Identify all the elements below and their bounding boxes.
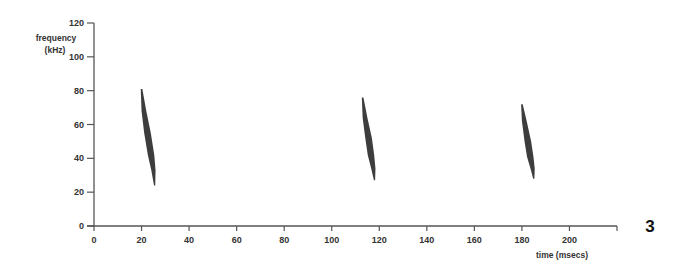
x-axis-title: time (msecs) [536, 250, 588, 260]
panel-label: 3 [645, 217, 654, 236]
call-trace-2 [362, 97, 376, 180]
x-tick-label: 120 [372, 235, 387, 245]
x-axis: 020406080100120140160180200 [87, 226, 617, 245]
call-trace-1 [141, 89, 156, 185]
y-tick-label: 100 [69, 52, 84, 62]
y-axis: 020406080100120 [69, 18, 94, 231]
call-traces [141, 89, 535, 185]
x-tick-label: 180 [514, 235, 529, 245]
y-axis-title-line2: (kHz) [45, 45, 66, 55]
y-tick-label: 120 [69, 18, 84, 28]
x-tick-label: 0 [91, 235, 96, 245]
x-tick-label: 60 [232, 235, 242, 245]
y-tick-label: 40 [74, 153, 84, 163]
x-tick-label: 80 [279, 235, 289, 245]
x-tick-label: 40 [184, 235, 194, 245]
y-axis-title-line1: frequency [36, 33, 77, 43]
x-tick-label: 200 [562, 235, 577, 245]
x-tick-label: 20 [137, 235, 147, 245]
x-tick-label: 140 [419, 235, 434, 245]
y-tick-label: 0 [79, 221, 84, 231]
call-trace-3 [521, 104, 535, 178]
spectrogram-chart: 020406080100120 020406080100120140160180… [0, 0, 687, 274]
y-tick-label: 60 [74, 120, 84, 130]
x-tick-label: 160 [467, 235, 482, 245]
y-tick-label: 80 [74, 86, 84, 96]
x-tick-label: 100 [324, 235, 339, 245]
y-tick-label: 20 [74, 187, 84, 197]
